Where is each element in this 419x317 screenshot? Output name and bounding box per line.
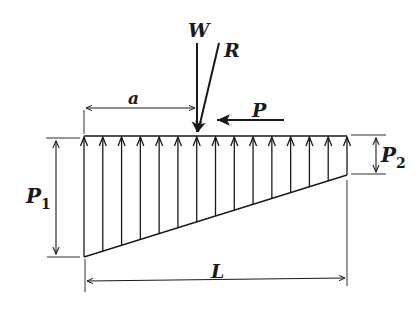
label-w: W bbox=[188, 19, 211, 41]
label-p1: P1 bbox=[25, 184, 51, 212]
pressure-arrows bbox=[81, 137, 351, 257]
label-a: a bbox=[128, 88, 139, 108]
label-p: P bbox=[251, 99, 267, 121]
r-force-arrow bbox=[198, 43, 219, 132]
label-l: L bbox=[210, 260, 224, 282]
pressure-distribution-diagram: W R P a L P1 P2 bbox=[0, 0, 419, 317]
label-p2: P2 bbox=[380, 143, 406, 171]
label-r: R bbox=[223, 39, 240, 61]
